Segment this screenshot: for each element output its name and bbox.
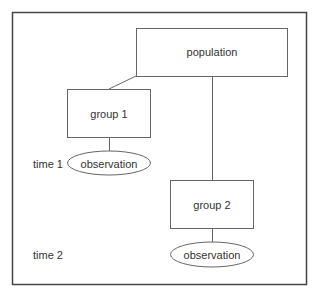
edge-population-group1 bbox=[109, 76, 136, 89]
population-label: population bbox=[187, 47, 238, 58]
time1-label: time 1 bbox=[33, 159, 63, 170]
time2-label: time 2 bbox=[33, 250, 63, 261]
observation2-label: observation bbox=[184, 250, 241, 261]
observation1-label: observation bbox=[81, 159, 138, 170]
diagram-canvas bbox=[0, 0, 317, 290]
group1-label: group 1 bbox=[90, 109, 127, 120]
group2-label: group 2 bbox=[193, 200, 230, 211]
